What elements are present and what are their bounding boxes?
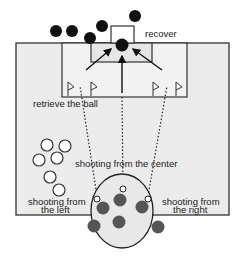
soccer-drill-diagram: recover retrieve the ball shooting from … <box>0 0 245 264</box>
goalkeeper-ball <box>116 39 129 52</box>
label-shooting-right-2: the right <box>173 204 208 215</box>
label-recover: recover <box>145 28 177 39</box>
label-shooting-center: shooting from the center <box>75 158 177 169</box>
label-shooting-left-2: the left <box>41 204 70 215</box>
label-retrieve-ball: retrieve the ball <box>33 98 98 109</box>
